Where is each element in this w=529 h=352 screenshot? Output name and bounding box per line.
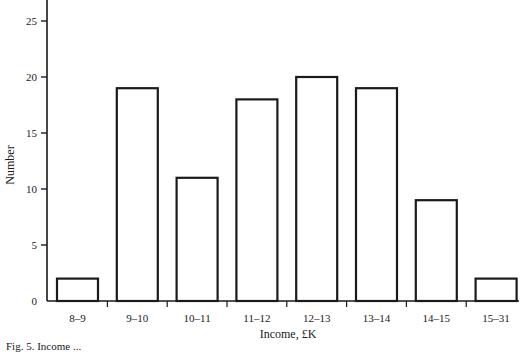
x-tick-label: 13–14 <box>363 312 391 324</box>
histogram-bar <box>296 77 337 301</box>
x-tick-label: 10–11 <box>184 312 211 324</box>
y-tick-label: 5 <box>32 239 38 251</box>
histogram-bar <box>236 99 277 301</box>
y-tick-label: 20 <box>26 71 38 83</box>
y-tick-label: 0 <box>32 295 38 307</box>
y-tick-label: 25 <box>26 15 38 27</box>
histogram-bar <box>117 88 158 301</box>
y-axis-title: Number <box>3 145 17 184</box>
x-tick-label: 14–15 <box>423 312 451 324</box>
y-tick-label: 15 <box>26 127 38 139</box>
x-tick-label: 11–12 <box>243 312 270 324</box>
x-tick-label: 9–10 <box>126 312 149 324</box>
figure-caption: Fig. 5. Income ... <box>6 340 81 352</box>
x-tick-label: 8–9 <box>69 312 86 324</box>
x-axis: 8–99–1010–1111–1212–1313–1414–1515–31 <box>47 301 519 324</box>
histogram-bar <box>356 88 397 301</box>
histogram-bar <box>177 178 218 301</box>
histogram-bar <box>416 200 457 301</box>
y-tick-label: 10 <box>26 183 38 195</box>
histogram-bar <box>57 279 98 301</box>
histogram-bar <box>476 279 517 301</box>
x-tick-label: 15–31 <box>482 312 510 324</box>
y-axis: 0510152025 <box>26 0 47 307</box>
bars <box>57 77 517 301</box>
x-axis-title: Income, £K <box>260 327 317 341</box>
x-tick-label: 12–13 <box>303 312 331 324</box>
